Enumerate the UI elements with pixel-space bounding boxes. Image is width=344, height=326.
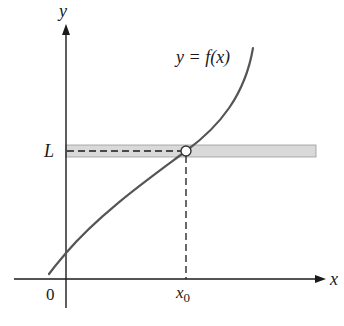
y-axis-arrow-icon xyxy=(62,24,70,35)
x-axis-label: x xyxy=(329,269,338,289)
open-point-marker xyxy=(181,146,191,156)
curve-label: y = f(x) xyxy=(174,47,230,68)
function-graph-diagram: y x 0 L y = f(x) x0 xyxy=(0,0,344,326)
x-axis-arrow-icon xyxy=(315,275,326,283)
x0-label-subscript: 0 xyxy=(184,290,191,305)
origin-label: 0 xyxy=(46,285,55,304)
y-axis-label: y xyxy=(57,1,67,21)
function-curve xyxy=(49,48,253,274)
x0-label: x0 xyxy=(175,283,190,305)
level-label: L xyxy=(43,141,54,161)
